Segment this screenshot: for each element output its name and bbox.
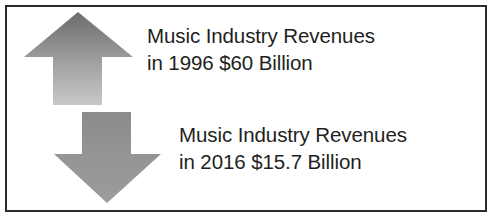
callout-2016-line-2: in 2016 $15.7 Billion — [179, 148, 407, 175]
revenue-callout-1996: Music Industry Revenues in 1996 $60 Bill… — [147, 22, 375, 76]
callout-2016-line-1: Music Industry Revenues — [179, 121, 407, 148]
callout-1996-line-1: Music Industry Revenues — [147, 22, 375, 49]
revenue-callout-2016: Music Industry Revenues in 2016 $15.7 Bi… — [179, 121, 407, 175]
callout-1996-line-2: in 1996 $60 Billion — [147, 49, 375, 76]
